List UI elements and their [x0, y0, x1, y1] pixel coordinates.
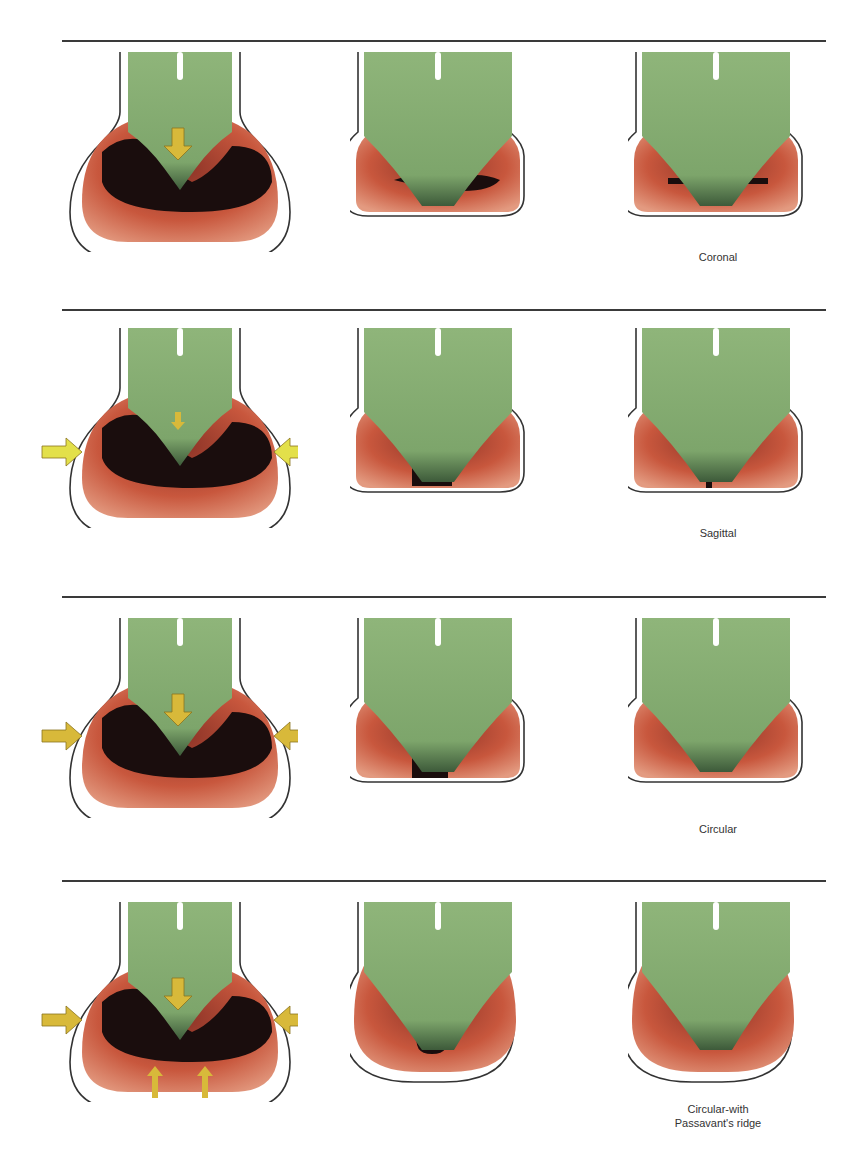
panel-sagittal-partial: [350, 328, 550, 528]
panel-coronal-closed: [628, 52, 828, 252]
panel-sagittal-open: [38, 328, 298, 528]
row-divider-circular: [62, 596, 826, 598]
panel-circular-passavant-partial: [350, 902, 550, 1102]
row-label-sagittal: Sagittal: [638, 526, 798, 540]
panel-coronal-partial: [350, 52, 550, 252]
row-divider-sagittal: [62, 309, 826, 311]
row-label-passavant: Circular-with Passavant's ridge: [638, 1102, 798, 1130]
row-label-passavant-line2: Passavant's ridge: [638, 1116, 798, 1130]
row-label-coronal: Coronal: [638, 250, 798, 264]
row-divider-passavant: [62, 880, 826, 882]
row-label-circular: Circular: [638, 822, 798, 836]
row-label-passavant-line1: Circular-with: [638, 1102, 798, 1116]
row-divider-coronal: [62, 40, 826, 42]
panel-circular-partial: [350, 618, 550, 818]
panel-sagittal-closed: [628, 328, 828, 528]
panel-coronal-open: [38, 52, 298, 252]
panel-circular-closed: [628, 618, 828, 818]
panel-circular-passavant-open: [38, 902, 298, 1102]
panel-circular-open: [38, 618, 298, 818]
panel-circular-passavant-closed: [628, 902, 828, 1102]
